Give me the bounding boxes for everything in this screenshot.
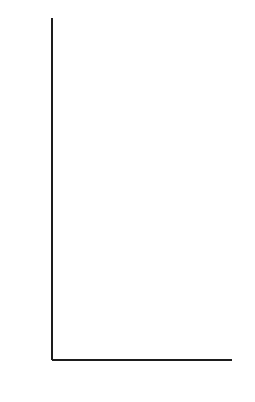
axes-frame (52, 18, 232, 360)
mortality-dose-chart (0, 0, 255, 402)
chart-canvas (0, 0, 255, 402)
